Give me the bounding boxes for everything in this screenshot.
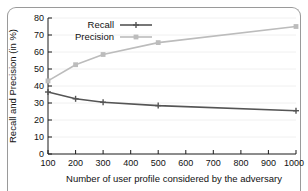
data-point-marker	[294, 24, 299, 29]
x-tick-label: 600	[178, 158, 193, 168]
y-tick-label: 30	[34, 98, 44, 108]
y-tick-label: 60	[34, 47, 44, 57]
figure-container: 80 70 60 50 40 30 20 10 0	[0, 0, 308, 191]
x-tick-label: 800	[233, 158, 248, 168]
y-axis-title: Recall and Precision (in %)	[7, 29, 18, 143]
x-tick-label: 500	[151, 158, 166, 168]
x-tick-label: 900	[261, 158, 276, 168]
data-point-marker	[45, 89, 51, 95]
x-tick-label: 700	[206, 158, 221, 168]
x-axis	[48, 150, 296, 154]
line-chart: 80 70 60 50 40 30 20 10 0	[0, 0, 308, 191]
x-tick-label: 300	[96, 158, 111, 168]
x-tick-label: 400	[123, 158, 138, 168]
y-tick-label: 50	[34, 64, 44, 74]
x-axis-title: Number of user profile considered by the…	[66, 173, 282, 184]
legend-swatch-recall	[120, 22, 152, 28]
y-tick-label: 10	[34, 132, 44, 142]
x-tick-labels: 100 200 300 400 500 600 700 800 900 1000	[40, 158, 304, 168]
y-tick-label: 20	[34, 115, 44, 125]
y-tick-label: 80	[34, 13, 44, 23]
y-tick-labels: 80 70 60 50 40 30 20 10 0	[34, 13, 44, 159]
x-tick-label: 200	[68, 158, 83, 168]
y-tick-label: 70	[34, 30, 44, 40]
y-tick-label: 40	[34, 81, 44, 91]
data-point-marker	[73, 62, 78, 67]
data-point-marker	[101, 52, 106, 57]
data-point-marker	[156, 40, 161, 45]
data-point-marker	[100, 99, 106, 105]
y-axis	[48, 18, 52, 154]
data-point-marker	[293, 108, 299, 114]
chart-legend: Recall Precision	[75, 19, 152, 42]
x-tick-label: 100	[40, 158, 55, 168]
series-recall	[45, 89, 299, 114]
legend-label-recall: Recall	[88, 19, 114, 30]
data-point-marker	[73, 96, 79, 102]
chart-plot-area: 80 70 60 50 40 30 20 10 0	[0, 0, 308, 191]
legend-label-precision: Precision	[75, 31, 114, 42]
data-point-marker	[46, 79, 51, 84]
x-tick-label: 1000	[284, 158, 304, 168]
